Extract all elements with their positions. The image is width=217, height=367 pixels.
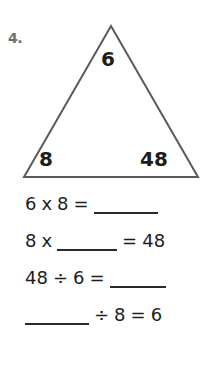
worksheet-page: 4. 6 8 48 6x8=8x=4848÷6=÷8=6 [0,0,217,367]
equation-token: 6 [25,193,36,215]
answer-blank[interactable] [110,268,166,288]
equation-token: = [74,193,89,215]
equation-row: 48÷6= [0,264,217,301]
equation-row: ÷8=6 [0,301,217,338]
equation-1: 6x8= [25,190,158,215]
equation-token: x [41,193,52,215]
equation-2: 8x=48 [25,227,165,252]
equation-token: 48 [25,267,48,289]
answer-blank[interactable] [25,305,89,325]
equation-token: = [122,230,137,252]
triangle-bottom-right-value: 48 [140,149,168,169]
equation-token: = [131,304,146,326]
equation-row: 8x=48 [0,227,217,264]
equation-token: 8 [25,230,36,252]
equation-token: ÷ [53,267,68,289]
equation-3: 48÷6= [25,264,166,289]
answer-blank[interactable] [57,231,117,251]
equation-token: 8 [57,193,68,215]
equation-list: 6x8=8x=4848÷6=÷8=6 [0,190,217,338]
triangle-outline-icon [0,0,217,186]
answer-blank[interactable] [94,194,158,214]
triangle-top-value: 6 [101,49,115,69]
equation-row: 6x8= [0,190,217,227]
equation-token: x [41,230,52,252]
equation-token: ÷ [94,304,109,326]
equation-token: 6 [73,267,84,289]
triangle-bottom-left-value: 8 [39,149,53,169]
fact-family-triangle: 6 8 48 [0,0,217,186]
equation-token: 6 [151,304,162,326]
equation-token: = [89,267,104,289]
equation-token: 48 [142,230,165,252]
equation-token: 8 [114,304,125,326]
equation-4: ÷8=6 [25,301,162,326]
